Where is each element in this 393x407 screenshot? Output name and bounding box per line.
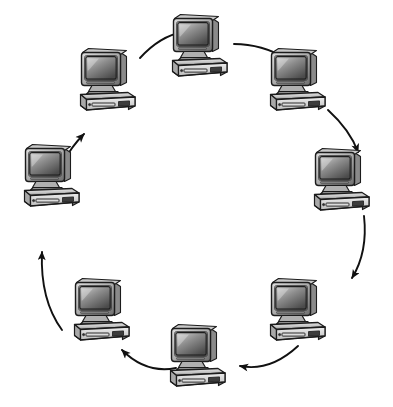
- computer-node-3[interactable]: [302, 142, 374, 214]
- computer-node-8[interactable]: [68, 42, 140, 114]
- computer-node-1[interactable]: [160, 8, 232, 80]
- desktop-computer-icon: [68, 42, 140, 114]
- desktop-computer-icon: [258, 272, 330, 344]
- desktop-computer-icon: [302, 142, 374, 214]
- computer-node-layer: [0, 0, 393, 407]
- desktop-computer-icon: [258, 42, 330, 114]
- desktop-computer-icon: [160, 8, 232, 80]
- computer-node-2[interactable]: [258, 42, 330, 114]
- computer-node-4[interactable]: [258, 272, 330, 344]
- computer-node-5[interactable]: [158, 318, 230, 390]
- desktop-computer-icon: [62, 272, 134, 344]
- computer-node-6[interactable]: [62, 272, 134, 344]
- computer-node-7[interactable]: [12, 138, 84, 210]
- desktop-computer-icon: [158, 318, 230, 390]
- ring-network-diagram: Ring network topology Nine desktop compu…: [0, 0, 393, 407]
- desktop-computer-icon: [12, 138, 84, 210]
